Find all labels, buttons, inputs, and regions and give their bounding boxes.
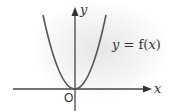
curve-label-eq: = f(	[119, 37, 148, 52]
x-axis-arrow-icon	[143, 86, 152, 93]
x-axis-label: x	[154, 82, 161, 95]
graph-canvas: y x O y = f(x)	[0, 0, 170, 112]
origin-label: O	[64, 92, 73, 104]
y-axis-arrow-icon	[72, 7, 79, 16]
y-axis-label: y	[80, 3, 87, 16]
curve-label-var: x	[148, 37, 155, 52]
curve-label-close: )	[156, 37, 161, 52]
curve-label: y = f(x)	[112, 38, 161, 51]
